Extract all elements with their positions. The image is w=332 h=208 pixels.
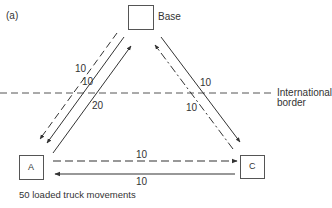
- flow-label-base-to-c-solid: 10: [200, 78, 211, 88]
- flow-label-c-to-a-solid: 10: [136, 177, 147, 187]
- flow-label-base-to-a-solid: 10: [82, 77, 93, 87]
- flow-label-c-to-base-dashdot: 10: [186, 103, 197, 113]
- c-node-label: C: [249, 161, 256, 171]
- flow-base-to-c-solid: [161, 37, 240, 142]
- base-node-label: Base: [158, 12, 181, 22]
- flow-label-a-to-c-dashed: 10: [136, 150, 147, 160]
- panel-label: (a): [6, 11, 18, 21]
- flow-label-a-to-base-solid: 20: [92, 101, 103, 111]
- flow-base-to-a-solid: [47, 37, 124, 143]
- flow-c-to-base-dashdot: [155, 45, 233, 149]
- caption: 50 loaded truck movements: [19, 190, 136, 200]
- flow-base-to-a-dashed: [40, 33, 117, 139]
- base-node-box: [129, 6, 154, 30]
- a-node-label: A: [28, 162, 34, 172]
- flow-label-base-to-a-dashed: 10: [75, 64, 86, 74]
- border-label-line2: border: [277, 98, 306, 108]
